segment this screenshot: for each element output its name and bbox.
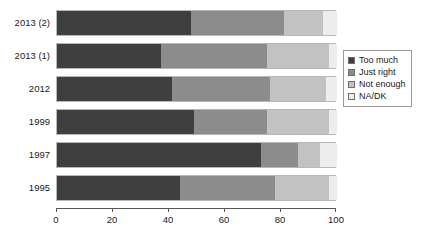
- bar-segment: [191, 11, 283, 35]
- x-axis-tick: [168, 208, 169, 212]
- x-axis-tick: [224, 208, 225, 212]
- bar-segment: [267, 44, 329, 68]
- bar-segment: [57, 44, 161, 68]
- y-axis-label: 2012: [29, 84, 50, 94]
- bar-segment: [326, 77, 337, 101]
- x-axis-tick: [112, 208, 113, 212]
- plot-area: [56, 6, 336, 204]
- bar-segment: [161, 44, 267, 68]
- bar-segment: [57, 110, 194, 134]
- bar-segment: [57, 77, 172, 101]
- legend-swatch-icon: [348, 81, 355, 88]
- bar-row: [56, 43, 336, 69]
- bar-track: [56, 109, 336, 135]
- stacked-bar-chart: 2013 (2)2013 (1)2012199919971995 0204060…: [0, 0, 425, 240]
- bar-segment: [284, 11, 323, 35]
- bar-track: [56, 142, 336, 168]
- legend-item-label: NA/DK: [359, 92, 387, 101]
- bar-segment: [57, 143, 261, 167]
- bar-track: [56, 175, 336, 201]
- bar-segment: [172, 77, 270, 101]
- y-axis-labels: 2013 (2)2013 (1)2012199919971995: [0, 6, 50, 204]
- legend-item-label: Too much: [359, 56, 398, 65]
- legend-swatch-icon: [348, 69, 355, 76]
- bar-track: [56, 10, 336, 36]
- legend-item: NA/DK: [348, 91, 406, 102]
- legend: Too muchJust rightNot enoughNA/DK: [343, 50, 412, 107]
- legend-swatch-icon: [348, 93, 355, 100]
- x-axis-tick-label: 60: [219, 215, 230, 225]
- y-axis-label: 1997: [29, 150, 50, 160]
- x-axis-tick: [56, 208, 57, 212]
- bar-segment: [57, 11, 191, 35]
- y-axis-label: 2013 (2): [15, 18, 50, 28]
- bar-row: [56, 76, 336, 102]
- bar-row: [56, 142, 336, 168]
- bar-segment: [180, 176, 275, 200]
- x-axis-tick-label: 40: [163, 215, 174, 225]
- bar-track: [56, 76, 336, 102]
- bar-track: [56, 43, 336, 69]
- legend-item-label: Just right: [359, 68, 396, 77]
- bar-segment: [270, 77, 326, 101]
- bar-segment: [298, 143, 320, 167]
- y-axis-label: 1999: [29, 117, 50, 127]
- legend-item: Not enough: [348, 79, 406, 90]
- bar-segment: [261, 143, 297, 167]
- bar-segment: [329, 44, 337, 68]
- x-axis-tick-label: 0: [53, 215, 58, 225]
- bar-row: [56, 109, 336, 135]
- bar-row: [56, 175, 336, 201]
- bar-segment: [57, 176, 180, 200]
- bar-segment: [267, 110, 329, 134]
- y-axis-label: 1995: [29, 183, 50, 193]
- legend-item: Just right: [348, 67, 406, 78]
- bar-segment: [323, 11, 337, 35]
- x-axis-tick-label: 20: [107, 215, 118, 225]
- x-axis-line: [56, 208, 336, 209]
- y-axis-label: 2013 (1): [15, 51, 50, 61]
- legend-swatch-icon: [348, 57, 355, 64]
- bar-row: [56, 10, 336, 36]
- bar-segment: [275, 176, 328, 200]
- x-axis-tick: [280, 208, 281, 212]
- x-axis-tick: [335, 208, 336, 212]
- legend-item-label: Not enough: [359, 80, 406, 89]
- legend-item: Too much: [348, 55, 406, 66]
- x-axis: 020406080100: [56, 208, 336, 238]
- x-axis-tick-label: 100: [328, 215, 344, 225]
- bar-segment: [329, 176, 337, 200]
- bar-segment: [194, 110, 267, 134]
- x-axis-tick-label: 80: [275, 215, 286, 225]
- bar-segment: [320, 143, 337, 167]
- bar-segment: [329, 110, 337, 134]
